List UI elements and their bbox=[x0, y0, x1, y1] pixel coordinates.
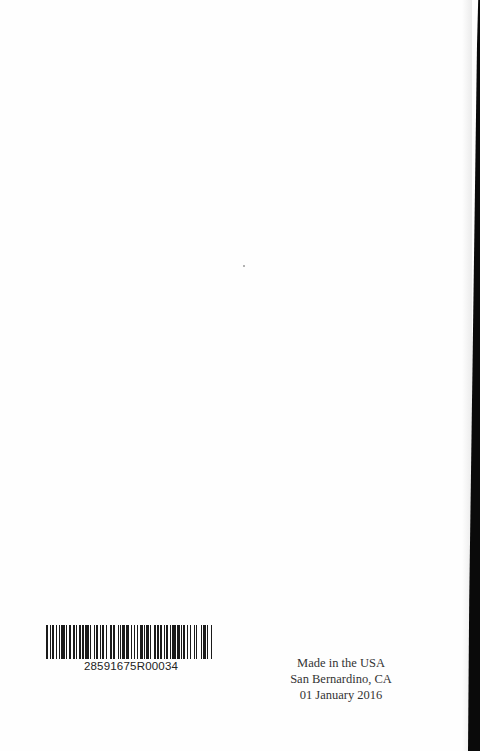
printer-imprint: Made in the USA San Bernardino, CA 01 Ja… bbox=[274, 655, 408, 703]
imprint-date: 01 January 2016 bbox=[274, 687, 408, 703]
barcode-block: 28591675R00034 bbox=[46, 625, 216, 672]
imprint-location: San Bernardino, CA bbox=[274, 671, 408, 687]
scan-speck bbox=[243, 265, 245, 267]
barcode-number: 28591675R00034 bbox=[46, 660, 216, 672]
imprint-made-in: Made in the USA bbox=[274, 655, 408, 671]
book-back-page: 28591675R00034 Made in the USA San Berna… bbox=[0, 0, 480, 751]
barcode-icon bbox=[46, 625, 216, 659]
